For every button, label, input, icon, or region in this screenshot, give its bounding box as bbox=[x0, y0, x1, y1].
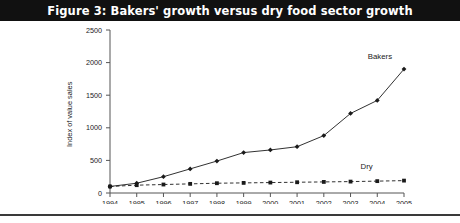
x-tick-label: 1994 bbox=[102, 199, 118, 204]
y-axis-title: Index of value sales bbox=[65, 81, 74, 147]
marker-dry bbox=[162, 183, 166, 187]
marker-dry bbox=[242, 181, 246, 185]
series-label-dry: Dry bbox=[361, 162, 373, 171]
marker-dry bbox=[268, 181, 272, 185]
x-tick-label: 1995 bbox=[129, 199, 145, 204]
marker-bakers bbox=[268, 148, 273, 153]
marker-bakers bbox=[215, 159, 220, 164]
line-chart-svg: 05001000150020002500 1994199519961997199… bbox=[0, 21, 460, 204]
marker-bakers bbox=[161, 174, 166, 179]
marker-dry bbox=[322, 180, 326, 184]
y-tick-label: 2500 bbox=[86, 26, 102, 35]
y-tick-label: 2000 bbox=[86, 58, 102, 67]
figure-title-bar: Figure 3: Bakers' growth versus dry food… bbox=[0, 0, 460, 21]
figure-container: Figure 3: Bakers' growth versus dry food… bbox=[0, 0, 460, 223]
x-axis-ticks: 1994199519961997199819992000200120022003… bbox=[102, 193, 412, 204]
marker-bakers bbox=[295, 144, 300, 149]
marker-dry bbox=[375, 179, 379, 183]
marker-bakers bbox=[188, 166, 193, 171]
x-tick-label: 1998 bbox=[209, 199, 225, 204]
y-tick-label: 1500 bbox=[86, 91, 102, 100]
x-tick-label: 1996 bbox=[155, 199, 171, 204]
series-label-bakers: Bakers bbox=[368, 52, 392, 61]
x-tick-label: 2001 bbox=[289, 199, 305, 204]
marker-dry bbox=[215, 181, 219, 185]
x-tick-label: 2002 bbox=[316, 199, 332, 204]
marker-dry bbox=[135, 183, 139, 187]
marker-dry bbox=[295, 180, 299, 184]
series-labels-layer: BakersDry bbox=[361, 52, 393, 171]
y-tick-label: 500 bbox=[90, 156, 102, 165]
x-tick-label: 1997 bbox=[182, 199, 198, 204]
y-axis-ticks: 05001000150020002500 bbox=[86, 26, 110, 198]
marker-dry bbox=[108, 185, 112, 189]
series-line-dry bbox=[110, 181, 404, 187]
figure-title: Figure 3: Bakers' growth versus dry food… bbox=[47, 4, 412, 18]
x-tick-label: 2005 bbox=[396, 199, 412, 204]
x-tick-label: 2000 bbox=[262, 199, 278, 204]
x-tick-label: 2004 bbox=[369, 199, 385, 204]
marker-dry bbox=[402, 179, 406, 183]
marker-dry bbox=[188, 182, 192, 186]
x-tick-label: 2003 bbox=[343, 199, 359, 204]
marker-bakers bbox=[241, 150, 246, 155]
bottom-divider bbox=[0, 214, 460, 216]
x-tick-label: 1999 bbox=[236, 199, 252, 204]
chart-plot-area: 05001000150020002500 1994199519961997199… bbox=[0, 21, 460, 204]
y-tick-label: 0 bbox=[98, 189, 102, 198]
marker-dry bbox=[349, 180, 353, 184]
y-tick-label: 1000 bbox=[86, 123, 102, 132]
